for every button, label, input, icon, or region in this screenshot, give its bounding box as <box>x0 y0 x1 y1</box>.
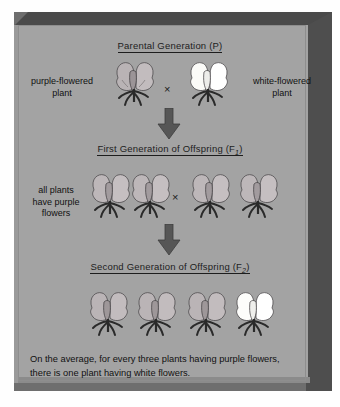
cross-symbol-parental: × <box>164 84 170 95</box>
caption-line-1: On the average, for every three plants h… <box>30 353 280 367</box>
label-f1-line3: flowers <box>16 208 96 220</box>
heading-parental-text: Parental Generation (P) <box>118 40 223 51</box>
heading-second-generation: Second Generation of Offspring (F2) <box>0 261 340 274</box>
figure-caption: On the average, for every three plants h… <box>30 353 280 380</box>
label-purple-flowered-plant: purple-flowered plant <box>14 76 110 99</box>
plaque-bevel-top <box>14 12 332 26</box>
label-white-flowered-plant: white-flowered plant <box>232 76 332 99</box>
cross-symbol-f1: × <box>172 192 178 203</box>
flower-f2-plant-3 <box>184 288 230 342</box>
caption-line-2: there is one plant having white flowers. <box>30 367 280 381</box>
heading-f1-suffix: ) <box>239 143 242 154</box>
label-f1-line1: all plants <box>16 185 96 197</box>
flower-f1-plant-2 <box>128 170 174 224</box>
flower-f2-plant-1 <box>86 288 132 342</box>
heading-parental-generation: Parental Generation (P) <box>0 40 340 51</box>
figure-panel: Parental Generation (P) purple-flowered … <box>0 0 340 407</box>
label-white-line2: plant <box>232 88 332 100</box>
heading-f2-suffix: ) <box>246 261 249 272</box>
plaque-bevel-right <box>306 12 332 391</box>
heading-f1-prefix: First Generation of Offspring (F <box>97 143 235 154</box>
flower-f2-plant-2 <box>134 288 180 342</box>
label-purple-line1: purple-flowered <box>14 76 110 88</box>
label-f1-line2: have purple <box>16 197 96 209</box>
arrow-down-parental-to-f1 <box>156 108 182 140</box>
label-white-line1: white-flowered <box>232 76 332 88</box>
label-all-plants-purple: all plants have purple flowers <box>16 185 96 220</box>
arrow-down-f1-to-f2 <box>156 224 182 256</box>
flower-f2-plant-4 <box>232 288 278 342</box>
label-purple-line2: plant <box>14 88 110 100</box>
flower-f1-plant-3 <box>188 170 234 224</box>
heading-f2-prefix: Second Generation of Offspring (F <box>90 261 242 272</box>
heading-first-generation: First Generation of Offspring (F1) <box>0 143 340 156</box>
flower-purple-flowered-parent <box>112 58 158 112</box>
flower-f1-plant-4 <box>236 170 282 224</box>
flower-white-flowered-parent <box>186 58 232 112</box>
